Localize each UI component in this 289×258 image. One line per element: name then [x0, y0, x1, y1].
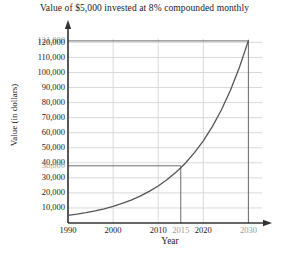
- y-tick-label: 100,000: [14, 67, 65, 77]
- y-axis-arrow: [65, 20, 71, 29]
- y-tick-label: 10,000: [14, 202, 65, 212]
- chart-figure: Value of $5,000 invested at 8% compounde…: [0, 0, 289, 258]
- axes: [65, 20, 272, 226]
- y-tick-label: 90,000: [14, 82, 65, 92]
- x-tick-label: 2000: [95, 225, 131, 235]
- x-tick-label: 1990: [50, 225, 86, 235]
- y-tick-label: 120,000: [14, 37, 65, 47]
- y-tick-label: 60,000: [14, 127, 65, 137]
- y-tick-label: 70,000: [14, 112, 65, 122]
- y-tick-label: 38,000: [14, 160, 65, 170]
- y-tick-label: 20,000: [14, 187, 65, 197]
- gridlines: [68, 39, 262, 223]
- y-tick-label: 30,000: [14, 172, 65, 182]
- x-tick-label: 2020: [185, 225, 221, 235]
- y-tick-label: 50,000: [14, 142, 65, 152]
- y-tick-label: 80,000: [14, 97, 65, 107]
- y-tick-label: 110,000: [14, 52, 65, 62]
- x-tick-label: 2030: [230, 225, 266, 235]
